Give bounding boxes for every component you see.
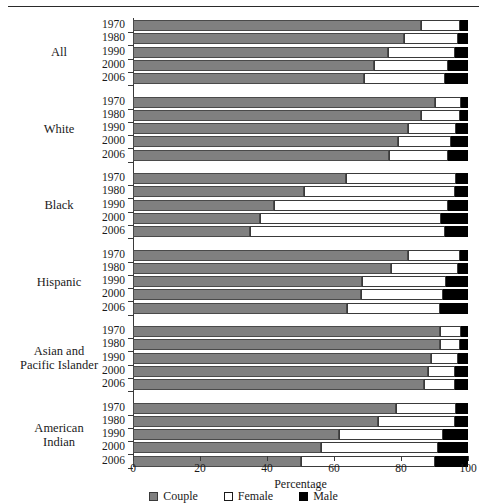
year-label: 1990 bbox=[65, 46, 125, 57]
bar-segment-male bbox=[448, 150, 468, 161]
y-axis-tick bbox=[128, 288, 133, 289]
x-axis-tick-label: 20 bbox=[180, 462, 220, 474]
bar-segment-female bbox=[431, 353, 458, 364]
plot-area bbox=[133, 18, 468, 456]
bar-segment-female bbox=[260, 213, 441, 224]
bar-segment-couple bbox=[133, 150, 389, 161]
bar-segment-female bbox=[347, 303, 439, 314]
y-axis-tick bbox=[128, 162, 133, 163]
year-label: 1970 bbox=[65, 172, 125, 183]
bar-segment-female bbox=[361, 289, 443, 300]
bar-segment-couple bbox=[133, 416, 378, 427]
bar-segment-female bbox=[388, 47, 455, 58]
year-label: 1980 bbox=[65, 262, 125, 273]
x-axis-tick-label: 60 bbox=[314, 462, 354, 474]
bar-segment-female bbox=[421, 110, 460, 121]
bar-segment-female bbox=[404, 33, 458, 44]
year-label: 2000 bbox=[65, 212, 125, 223]
bar-segment-male bbox=[460, 339, 468, 350]
bar-segment-male bbox=[458, 353, 468, 364]
year-label: 1970 bbox=[65, 249, 125, 260]
bar-segment-female bbox=[374, 60, 448, 71]
year-label: 1990 bbox=[65, 428, 125, 439]
bar-segment-female bbox=[424, 379, 454, 390]
bar-segment-male bbox=[440, 303, 468, 314]
legend-swatch-female-icon bbox=[224, 492, 233, 501]
bar-segment-female bbox=[378, 416, 455, 427]
y-axis-tick bbox=[128, 135, 133, 136]
y-axis-tick bbox=[128, 198, 133, 199]
year-label-column: 1970198019902000200619701980199020002006… bbox=[60, 18, 125, 456]
x-axis-tick-label: 40 bbox=[247, 462, 287, 474]
year-label: 1990 bbox=[65, 275, 125, 286]
bar-segment-couple bbox=[133, 33, 404, 44]
bar-segment-male bbox=[455, 47, 468, 58]
y-axis-tick bbox=[128, 338, 133, 339]
bar-segment-male bbox=[451, 136, 468, 147]
y-axis-tick bbox=[128, 275, 133, 276]
year-label: 2006 bbox=[65, 225, 125, 236]
bar-segment-couple bbox=[133, 442, 321, 453]
bar-segment-couple bbox=[133, 110, 421, 121]
year-label: 1970 bbox=[65, 19, 125, 30]
year-label: 2000 bbox=[65, 288, 125, 299]
bar-segment-female bbox=[440, 326, 462, 337]
bar-segment-female bbox=[250, 226, 444, 237]
y-axis-tick bbox=[128, 365, 133, 366]
x-axis-tick-label: 0 bbox=[113, 462, 153, 474]
bar-segment-male bbox=[461, 97, 468, 108]
y-axis-tick bbox=[128, 238, 133, 239]
bar-segment-couple bbox=[133, 97, 435, 108]
legend-label-female: Female bbox=[238, 489, 273, 504]
legend-item-couple: Couple bbox=[149, 489, 198, 504]
x-axis-tick bbox=[267, 456, 268, 461]
y-axis-tick bbox=[128, 185, 133, 186]
year-label: 2000 bbox=[65, 365, 125, 376]
x-axis-tick-label: 100 bbox=[448, 462, 487, 474]
y-axis-tick bbox=[128, 315, 133, 316]
bar-segment-couple bbox=[133, 213, 260, 224]
bar-segment-male bbox=[460, 20, 468, 31]
bar-segment-female bbox=[274, 200, 448, 211]
bar-segment-male bbox=[461, 326, 468, 337]
bar-segment-female bbox=[362, 276, 446, 287]
bar-segment-male bbox=[448, 60, 468, 71]
y-axis-tick bbox=[128, 428, 133, 429]
legend-swatch-male-icon bbox=[299, 492, 308, 501]
bar-segment-couple bbox=[133, 73, 364, 84]
year-label: 1980 bbox=[65, 338, 125, 349]
y-axis-tick bbox=[128, 351, 133, 352]
top-rule-divider bbox=[8, 6, 479, 7]
bar-segment-male bbox=[448, 200, 468, 211]
year-label: 1980 bbox=[65, 109, 125, 120]
year-label: 1990 bbox=[65, 122, 125, 133]
bar-segment-couple bbox=[133, 263, 391, 274]
bar-segment-female bbox=[440, 339, 460, 350]
bar-segment-couple bbox=[133, 250, 408, 261]
y-axis-tick bbox=[128, 32, 133, 33]
year-label: 1970 bbox=[65, 96, 125, 107]
bar-segment-female bbox=[391, 263, 458, 274]
legend-swatch-couple-icon bbox=[149, 492, 158, 501]
y-axis-tick bbox=[128, 148, 133, 149]
bar-segment-male bbox=[455, 186, 468, 197]
legend-label-couple: Couple bbox=[163, 489, 198, 504]
bar-segment-male bbox=[443, 289, 468, 300]
bar-segment-couple bbox=[133, 123, 408, 134]
bar-segment-male bbox=[445, 73, 468, 84]
x-axis-tick-label: 80 bbox=[381, 462, 421, 474]
bar-segment-couple bbox=[133, 289, 361, 300]
year-label: 2000 bbox=[65, 441, 125, 452]
year-label: 1990 bbox=[65, 352, 125, 363]
bar-segment-female bbox=[421, 20, 460, 31]
year-label: 1990 bbox=[65, 199, 125, 210]
bar-segment-female bbox=[428, 366, 455, 377]
bar-segment-couple bbox=[133, 186, 304, 197]
bar-segment-female bbox=[398, 136, 452, 147]
year-label: 2000 bbox=[65, 59, 125, 70]
bar-segment-couple bbox=[133, 326, 440, 337]
bar-segment-male bbox=[456, 173, 468, 184]
bar-segment-couple bbox=[133, 226, 250, 237]
bar-segment-male bbox=[441, 213, 468, 224]
legend-label-male: Male bbox=[313, 489, 338, 504]
